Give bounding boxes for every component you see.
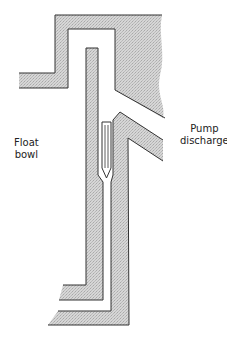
- float-bowl-label-line2: bowl: [14, 149, 39, 161]
- carburetor-diagram: [0, 0, 227, 341]
- pump-discharge-label-line1: Pump: [180, 123, 227, 135]
- check-valve: [102, 122, 111, 178]
- pump-discharge-label-line2: discharge: [180, 135, 227, 147]
- float-bowl-label: Float bowl: [14, 137, 39, 161]
- pump-discharge-label: Pump discharge: [180, 123, 227, 147]
- float-bowl-label-line1: Float: [14, 137, 39, 149]
